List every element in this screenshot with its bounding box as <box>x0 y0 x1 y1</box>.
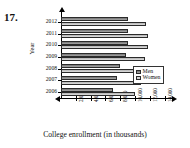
bar-women <box>61 45 148 49</box>
y-axis-tick-label: 2010 <box>46 42 57 48</box>
problem-number: 17. <box>4 11 18 23</box>
y-axis-tick-label: 2006 <box>46 89 57 95</box>
bar-women <box>61 81 141 85</box>
legend-swatch-icon <box>136 76 141 81</box>
legend-swatch-icon <box>136 70 141 75</box>
y-axis-tick-label: 2007 <box>46 77 57 83</box>
bar-men <box>61 76 117 80</box>
legend-label: Women <box>143 75 161 81</box>
y-axis-arrow-icon <box>59 7 65 12</box>
plot-area: 2,0004,0006,0008,00010,00012,00014,000 2… <box>61 16 172 98</box>
bar-men <box>61 64 120 68</box>
bar-men <box>61 41 128 45</box>
bar-women <box>61 57 145 61</box>
bar-group <box>61 86 172 98</box>
x-axis-left-arrow-icon <box>55 96 60 102</box>
y-axis-tick-label: 2012 <box>46 19 57 25</box>
bar-women <box>61 34 148 38</box>
chart-legend: MenWomen <box>133 66 164 84</box>
bar-women <box>61 92 135 96</box>
bar-men <box>61 17 128 21</box>
y-axis-tick-label: 2011 <box>46 31 57 37</box>
bar-men <box>61 53 126 57</box>
bar-women <box>61 22 146 26</box>
bar-men <box>61 29 128 33</box>
bar-group <box>61 51 172 63</box>
legend-item: Women <box>136 75 160 81</box>
y-axis-title: Year <box>28 43 35 55</box>
y-axis-tick-label: 2008 <box>46 66 57 72</box>
bar-group <box>61 28 172 40</box>
bar-group <box>61 16 172 28</box>
bar-women <box>61 69 141 73</box>
bar-chart-figure: 17. 2,0004,0006,0008,00010,00012,00014,0… <box>0 0 190 148</box>
y-axis-tick-label: 2009 <box>46 54 57 60</box>
bar-group <box>61 39 172 51</box>
bar-men <box>61 88 113 92</box>
x-axis-title: College enrollment (in thousands) <box>0 130 190 139</box>
